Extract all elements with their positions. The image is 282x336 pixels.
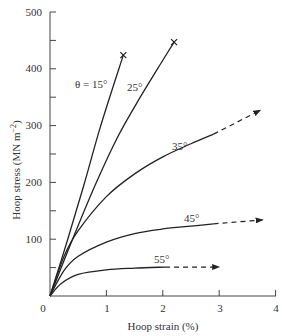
x-tick-3: 3 bbox=[217, 302, 223, 314]
y-tick-500: 500 bbox=[26, 6, 43, 18]
label-15deg: θ = 15° bbox=[75, 78, 107, 90]
x-tick-labels: 0 1 2 3 4 bbox=[40, 302, 279, 314]
x-tick-0: 0 bbox=[40, 302, 46, 314]
label-35deg: 35° bbox=[172, 140, 187, 152]
extrapolation-arrow bbox=[214, 220, 263, 224]
y-tick-100: 100 bbox=[26, 233, 43, 245]
x-tick-1: 1 bbox=[104, 302, 110, 314]
y-tick-300: 300 bbox=[26, 119, 43, 131]
y-ticks bbox=[50, 12, 56, 268]
y-tick-200: 200 bbox=[26, 176, 43, 188]
y-axis-label: Hoop stress (MN m−2) bbox=[9, 120, 23, 220]
label-55deg: 55° bbox=[154, 253, 169, 265]
curve-55deg bbox=[50, 267, 165, 296]
x-ticks bbox=[106, 290, 275, 296]
x-tick-2: 2 bbox=[160, 302, 166, 314]
y-tick-labels: 100 200 300 400 500 bbox=[26, 6, 43, 245]
curve-15deg bbox=[50, 55, 123, 296]
label-25deg: 25° bbox=[127, 81, 142, 93]
failure-cross-icon bbox=[171, 39, 177, 45]
y-tick-400: 400 bbox=[26, 62, 43, 74]
x-axis-label: Hoop strain (%) bbox=[128, 320, 199, 333]
x-tick-4: 4 bbox=[273, 302, 279, 314]
extrapolation-arrow bbox=[214, 110, 261, 134]
label-45deg: 45° bbox=[184, 212, 199, 224]
stress-strain-chart: 100 200 300 400 500 0 1 2 3 4 Hoop strai… bbox=[0, 0, 282, 336]
